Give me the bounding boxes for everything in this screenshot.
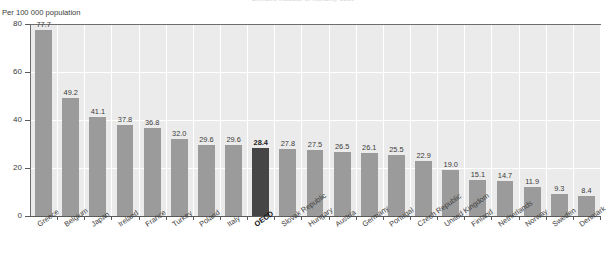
bar[interactable]: [225, 145, 242, 216]
x-tick-mark: [573, 216, 574, 220]
x-gridline: [329, 24, 330, 216]
y-tick-mark: [25, 120, 30, 121]
y-tick-mark: [25, 168, 30, 169]
bar-value-label: 9.3: [546, 185, 573, 193]
x-tick-mark: [410, 216, 411, 220]
bar[interactable]: [35, 30, 52, 216]
bar[interactable]: [198, 145, 215, 216]
bar-value-label: 41.1: [84, 108, 111, 116]
y-tick-mark: [25, 72, 30, 73]
bar[interactable]: [415, 161, 432, 216]
y-gridline: [30, 24, 600, 25]
x-gridline: [220, 24, 221, 216]
x-gridline: [464, 24, 465, 216]
bar-value-label: 22.9: [410, 152, 437, 160]
bar-value-label: 26.5: [329, 143, 356, 151]
x-gridline: [301, 24, 302, 216]
y-tick-label: 20: [0, 163, 22, 172]
y-tick-label: 80: [0, 19, 22, 28]
bar[interactable]: [89, 117, 106, 216]
bar-value-label: 25.5: [383, 146, 410, 154]
bar[interactable]: [279, 149, 296, 216]
bar[interactable]: [334, 152, 351, 216]
y-tick-label: 0: [0, 211, 22, 220]
x-tick-mark: [329, 216, 330, 220]
bar-value-label: 14.7: [491, 172, 518, 180]
bar[interactable]: [252, 148, 269, 216]
bar[interactable]: [62, 98, 79, 216]
bar-value-label: 19.0: [437, 161, 464, 169]
x-tick-mark: [166, 216, 167, 220]
x-gridline: [410, 24, 411, 216]
bar-value-label: 15.1: [464, 171, 491, 179]
x-gridline: [193, 24, 194, 216]
x-tick-mark: [519, 216, 520, 220]
x-tick-mark: [356, 216, 357, 220]
x-tick-mark: [546, 216, 547, 220]
bar[interactable]: [117, 125, 134, 216]
bar-value-label: 26.1: [356, 144, 383, 152]
x-gridline: [57, 24, 58, 216]
bar[interactable]: [388, 155, 405, 216]
x-tick-mark: [220, 216, 221, 220]
x-gridline: [437, 24, 438, 216]
bar-value-label: 29.6: [220, 136, 247, 144]
bar[interactable]: [144, 128, 161, 216]
x-gridline: [519, 24, 520, 216]
y-gridline: [30, 72, 600, 73]
x-gridline: [274, 24, 275, 216]
y-axis-unit-label: Per 100 000 population: [2, 8, 81, 17]
x-gridline: [356, 24, 357, 216]
x-gridline: [491, 24, 492, 216]
y-tick-label: 60: [0, 67, 22, 76]
x-tick-mark: [383, 216, 384, 220]
bar-value-label: 37.8: [111, 116, 138, 124]
bar-value-label: 27.5: [301, 141, 328, 149]
y-tick-mark: [25, 216, 30, 217]
bar-value-label: 27.8: [274, 140, 301, 148]
bar-value-label: 36.8: [139, 119, 166, 127]
bar-value-label: 77.7: [30, 21, 57, 29]
x-tick-mark: [247, 216, 248, 220]
x-gridline: [84, 24, 85, 216]
bar-value-label: 8.4: [573, 187, 600, 195]
x-gridline: [383, 24, 384, 216]
x-gridline: [247, 24, 248, 216]
bar[interactable]: [171, 139, 188, 216]
x-tick-mark: [193, 216, 194, 220]
bar-value-label: 32.0: [166, 130, 193, 138]
bar-value-label: 49.2: [57, 89, 84, 97]
y-tick-label: 40: [0, 115, 22, 124]
chart-title: Selected indicator of mortality, 2009: [0, 0, 606, 2]
bar-value-label: 28.4: [247, 139, 274, 147]
bar[interactable]: [361, 153, 378, 216]
bar-value-label: 11.9: [519, 178, 546, 186]
x-gridline: [166, 24, 167, 216]
x-tick-mark: [139, 216, 140, 220]
bar-value-label: 29.6: [193, 136, 220, 144]
x-tick-mark: [600, 216, 601, 220]
